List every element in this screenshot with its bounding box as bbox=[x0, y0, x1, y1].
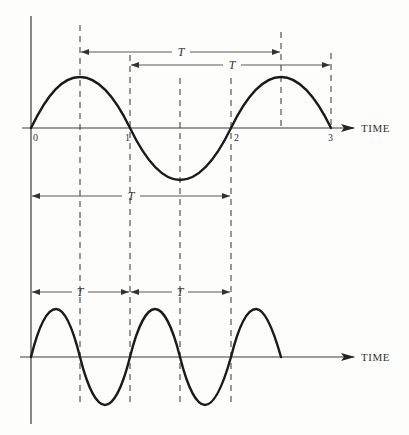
top-time-label: TIME bbox=[361, 122, 390, 134]
bottom-time-label: TIME bbox=[361, 351, 390, 363]
tick-2: 2 bbox=[234, 132, 239, 143]
tick-3: 3 bbox=[328, 132, 333, 143]
diagram-canvas: TIME 0 1 2 3 T T T bbox=[0, 0, 409, 435]
period-dimension-1: T bbox=[81, 45, 280, 59]
tick-1: 1 bbox=[125, 132, 130, 143]
period-dimension-2: T bbox=[131, 58, 330, 72]
tick-0: 0 bbox=[33, 132, 38, 143]
period-dimension-3: T bbox=[32, 189, 230, 203]
period-label: T bbox=[77, 285, 85, 299]
period-label: T bbox=[229, 58, 237, 72]
period-dimension-5: T bbox=[131, 285, 230, 299]
period-label: T bbox=[177, 285, 185, 299]
period-label: T bbox=[178, 45, 186, 59]
period-label: T bbox=[128, 189, 136, 203]
bottom-graph: TIME T T bbox=[20, 220, 390, 407]
top-graph: TIME 0 1 2 3 T T T bbox=[22, 25, 390, 220]
period-dimension-4: T bbox=[32, 285, 129, 299]
period-diagram: TIME 0 1 2 3 T T T bbox=[0, 0, 409, 435]
